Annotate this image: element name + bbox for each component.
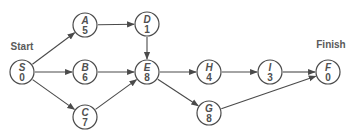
node-d: D1 (135, 12, 159, 36)
node-a: A5 (73, 13, 97, 37)
node-c: C7 (73, 105, 97, 129)
node-duration: 4 (206, 72, 212, 83)
edge-a-to-d (98, 24, 134, 25)
edge-e-to-g (158, 79, 198, 106)
node-duration: 7 (82, 117, 88, 128)
node-duration: 6 (82, 72, 88, 83)
finish-label: Finish (316, 39, 345, 50)
node-h: H4 (197, 60, 221, 84)
nodes-layer: S0A5B6C7D1E8H4G8I3F0 (10, 12, 340, 129)
start-label: Start (11, 41, 34, 52)
edge-s-to-a (32, 33, 74, 64)
node-duration: 0 (19, 72, 25, 83)
node-s: S0 (10, 60, 34, 84)
node-duration: 8 (144, 72, 150, 83)
edge-c-to-e (96, 80, 137, 110)
node-duration: 0 (325, 72, 331, 83)
node-b: B6 (73, 60, 97, 84)
node-duration: 3 (267, 72, 273, 83)
node-g: G8 (197, 101, 221, 125)
node-f: F0 (316, 60, 340, 84)
node-duration: 1 (144, 24, 150, 35)
node-duration: 8 (206, 113, 212, 124)
edge-s-to-c (33, 80, 75, 110)
network-diagram: S0A5B6C7D1E8H4G8I3F0 Start Finish (0, 0, 351, 134)
node-i: I3 (258, 60, 282, 84)
node-duration: 5 (82, 25, 88, 36)
node-e: E8 (135, 60, 159, 84)
